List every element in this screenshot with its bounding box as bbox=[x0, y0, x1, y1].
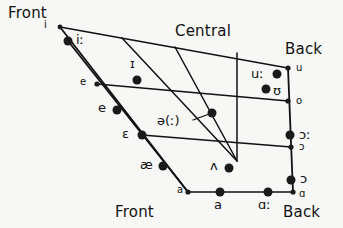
region-label-front-0: Front bbox=[8, 6, 47, 21]
vowel-ae-label: æ bbox=[140, 158, 153, 171]
vowel-i-long-label: iː bbox=[76, 33, 84, 46]
vowel-open-o-long-label: ɔː bbox=[299, 128, 311, 141]
region-label-back-4: Back bbox=[283, 205, 320, 220]
vowel-turned-v-label: ʌ bbox=[210, 159, 218, 172]
vowel-u-long-label: uː bbox=[251, 67, 264, 80]
region-label-front-3: Front bbox=[115, 205, 154, 220]
vowel-u-back-corner-label: u bbox=[296, 63, 302, 73]
vowel-schwa-dot bbox=[208, 109, 217, 118]
vowel-u-back-corner-dot bbox=[285, 65, 290, 70]
chart-lines bbox=[60, 27, 293, 192]
vowel-i-long-dot bbox=[64, 37, 73, 46]
vowel-script-a-long-dot bbox=[264, 188, 273, 197]
vowel-o-label: o bbox=[296, 96, 302, 106]
vowel-script-a-long-label: ɑː bbox=[258, 198, 271, 211]
vowel-a-front-corner-dot bbox=[185, 189, 190, 194]
vowel-e-close-mid-label: e bbox=[80, 77, 86, 87]
vowel-turned-v-dot bbox=[225, 164, 234, 173]
vowel-script-a-back-corner-label: ɑ bbox=[299, 189, 305, 199]
vowel-e-lower-label: e bbox=[98, 101, 106, 114]
vowel-i-short-label: i bbox=[44, 20, 47, 30]
vowel-open-o-small-dot bbox=[288, 144, 293, 149]
vowel-o-dot bbox=[285, 98, 290, 103]
vowel-open-o-small-label: ɔ bbox=[299, 142, 305, 152]
vowel-ae-dot bbox=[159, 162, 168, 171]
vowel-a-open-dot bbox=[216, 188, 225, 197]
region-label-central-1: Central bbox=[175, 24, 231, 39]
close-line bbox=[60, 27, 288, 68]
vowel-chart: FrontCentralBackFrontBack iiːɪeeɛæaaɑːɑɔ… bbox=[0, 0, 343, 228]
vowel-u-long-dot bbox=[273, 70, 282, 79]
vowel-e-lower-dot bbox=[113, 106, 122, 115]
vowel-script-a-back-corner-dot bbox=[290, 189, 295, 194]
vowel-small-capital-i-dot bbox=[133, 76, 142, 85]
vowel-upsilon-label: ʊ bbox=[273, 84, 281, 97]
vowel-i-short-dot bbox=[58, 25, 63, 30]
vowel-open-o-long-dot bbox=[286, 131, 295, 140]
vowel-small-capital-i-label: ɪ bbox=[130, 57, 135, 70]
vowel-a-front-corner-label: a bbox=[177, 185, 183, 195]
vowel-a-open-label: a bbox=[214, 198, 222, 211]
vowel-schwa-label: ə(ː) bbox=[157, 114, 180, 127]
back-edge bbox=[288, 68, 293, 192]
vowel-open-o-lower-label: ɔ bbox=[300, 172, 307, 185]
vowel-epsilon-label: ɛ bbox=[122, 127, 129, 140]
vowel-upsilon-dot bbox=[262, 85, 271, 94]
vowel-open-o-lower-dot bbox=[287, 176, 296, 185]
vowel-epsilon-dot bbox=[138, 131, 147, 140]
open-mid-line bbox=[142, 135, 291, 147]
close-mid-line bbox=[97, 84, 288, 101]
vowel-e-close-mid-dot bbox=[94, 81, 99, 86]
region-label-back-2: Back bbox=[285, 42, 322, 57]
